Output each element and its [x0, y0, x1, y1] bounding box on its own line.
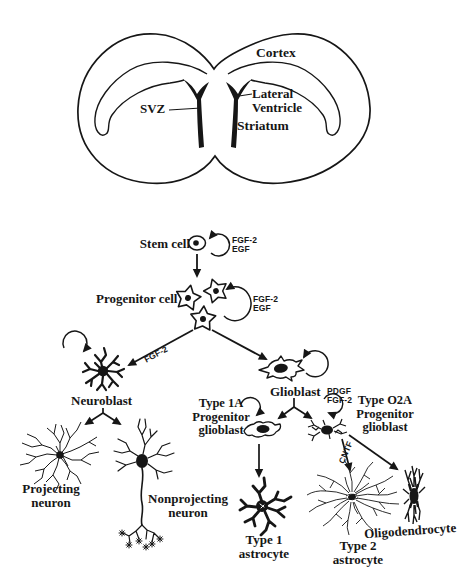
type-o2a-line1: Type O2A: [352, 394, 418, 408]
stem-cell-self-renewal-loop: [210, 234, 230, 256]
projecting-line1: Projecting: [15, 482, 87, 496]
projecting-line2: neuron: [15, 496, 87, 510]
neuroblast-branch-arrows: [86, 408, 120, 424]
type-1-astrocyte-label: Type 1 astrocyte: [231, 533, 297, 560]
progenitor-cell-icons: [174, 276, 231, 331]
glioblast-icon: [259, 356, 304, 381]
svz-pointer-line: [169, 108, 201, 110]
progenitor-loop-egf: EGF: [253, 304, 278, 313]
o2a-loop-factors-label: PDGF FGF-2: [327, 387, 352, 405]
type-1-astrocyte-icon: [240, 478, 291, 535]
brain-section: [78, 34, 370, 184]
type-1-astro-line1: Type 1: [231, 533, 297, 547]
type-1a-line2: Progenitor: [190, 411, 252, 425]
brain-inner-arc-left: [95, 62, 207, 135]
progenitor-self-renewal-loop: [224, 287, 251, 321]
type-o2a-progenitor-icon: [308, 419, 347, 441]
progenitor-loop-factors-label: FGF-2 EGF: [253, 295, 278, 313]
nonprojecting-neuron-icon: [114, 419, 174, 550]
glioblast-self-renewal-loop: [304, 351, 328, 377]
neuroblast-label: Neuroblast: [71, 394, 132, 408]
type-1a-line3: glioblast: [190, 424, 252, 438]
arrow-o2a-to-oligodendrocyte: [349, 435, 397, 469]
svz-label: SVZ: [140, 102, 165, 116]
neuroblast-self-renewal-loop: [63, 331, 87, 351]
stem-cell-label: Stem cell: [128, 237, 190, 251]
type-o2a-line2: Progenitor: [352, 408, 418, 422]
type-1a-progenitor-label: Type 1A Progenitor glioblast: [190, 397, 252, 438]
arrow-progenitor-to-glioblast: [212, 330, 266, 359]
type-2-astro-line2: astrocyte: [324, 553, 392, 567]
o2a-loop-fgf2: FGF-2: [327, 396, 352, 405]
lateral-ventricle-label: Lateral Ventricle: [252, 87, 302, 114]
brain-outer-contour: [78, 34, 370, 184]
type-1-astro-line2: astrocyte: [231, 547, 297, 561]
type-1a-line1: Type 1A: [190, 397, 252, 411]
lateral-ventricle-line2: Ventricle: [252, 101, 302, 115]
lineage-figure: Cortex SVZ Lateral Ventricle Striatum St…: [0, 0, 472, 575]
type-2-astro-line1: Type 2: [324, 539, 392, 553]
type-o2a-progenitor-label: Type O2A Progenitor glioblast: [352, 394, 418, 435]
glioblast-label: Glioblast: [270, 385, 321, 399]
right-lateral-ventricle-shape: [226, 79, 252, 148]
oligodendrocyte-icon: [403, 466, 425, 524]
lateral-ventricle-line1: Lateral: [252, 87, 302, 101]
glioblast-branch-arrows: [279, 398, 311, 418]
cortex-label: Cortex: [256, 46, 296, 60]
stem-loop-egf: EGF: [232, 245, 257, 254]
stem-loop-factors-label: FGF-2 EGF: [232, 236, 257, 254]
neuroblast-icon: [83, 348, 124, 390]
nonprojecting-neuron-label: Nonprojecting neuron: [136, 492, 240, 519]
type-o2a-line3: glioblast: [352, 421, 418, 435]
progenitor-cell-label: Progenitor cell: [96, 292, 177, 306]
type-2-astrocyte-label: Type 2 astrocyte: [324, 539, 392, 566]
stem-cell-icon: [189, 236, 206, 250]
projecting-neuron-label: Projecting neuron: [15, 482, 87, 509]
nonprojecting-line1: Nonprojecting: [136, 492, 240, 506]
striatum-label: Striatum: [237, 119, 289, 133]
nonprojecting-line2: neuron: [136, 506, 240, 520]
left-lateral-ventricle-shape: [183, 79, 209, 148]
